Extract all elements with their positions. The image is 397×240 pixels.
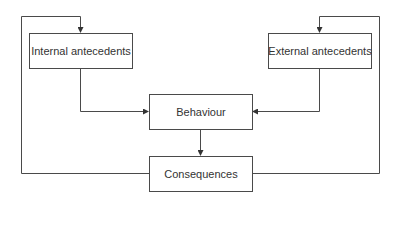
edge-internal-to-behaviour: [81, 69, 149, 112]
node-consequences: Consequences: [149, 156, 253, 192]
node-behaviour: Behaviour: [149, 94, 253, 130]
node-label: External antecedents: [268, 45, 371, 57]
node-internal-antecedents: Internal antecedents: [29, 33, 133, 69]
node-label: Consequences: [164, 168, 237, 180]
node-label: Internal antecedents: [31, 45, 131, 57]
node-label: Behaviour: [176, 106, 226, 118]
node-external-antecedents: External antecedents: [268, 33, 372, 69]
edge-external-to-behaviour: [253, 69, 320, 112]
